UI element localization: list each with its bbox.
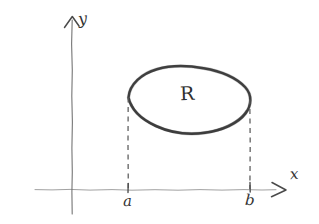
region-blob-overdraw (132, 104, 247, 134)
x-tick-label-b: b (244, 193, 255, 209)
sketch-canvas: y x a b R (0, 0, 319, 224)
region-label: R (180, 84, 195, 103)
axis-ticks-group (128, 183, 250, 193)
y-axis-label: y (77, 11, 88, 28)
x-axis-line (35, 189, 276, 190)
y-axis-group (65, 17, 80, 215)
x-tick-label-a: a (123, 194, 133, 209)
x-axis-label: x (289, 167, 298, 183)
dashed-drop-lines-group (128, 98, 250, 190)
y-axis-line (72, 20, 73, 214)
figure-svg (0, 0, 319, 224)
